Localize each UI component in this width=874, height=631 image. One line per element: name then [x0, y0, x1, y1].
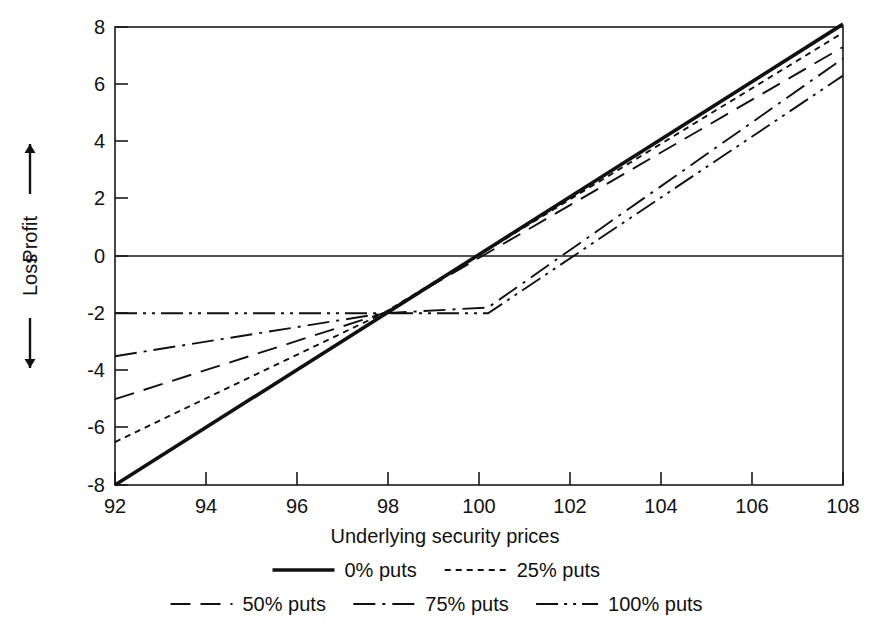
- y-tick-label: 6: [94, 73, 105, 95]
- x-axis-tick-labels: 92 94 96 98 100 102 104 106 108: [104, 495, 860, 517]
- y-tick-label: -2: [87, 302, 105, 324]
- legend-label: 0% puts: [345, 559, 417, 581]
- chart-figure: 8 6 4 2 0 -2 -4 -6 -8 92 94 96 98: [0, 0, 874, 631]
- x-tick-label: 96: [286, 495, 308, 517]
- y-tick-label: 4: [94, 130, 105, 152]
- series-line-100-puts: [115, 76, 843, 314]
- y-tick-label: 0: [94, 245, 105, 267]
- x-tick-label: 92: [104, 495, 126, 517]
- y-tick-label: -6: [87, 416, 105, 438]
- loss-down-arrow-icon: [25, 318, 36, 368]
- series-layer: [115, 24, 843, 485]
- y-tick-label: -8: [87, 474, 105, 496]
- y-axis-title-loss: Loss: [19, 254, 41, 296]
- y-tick-label: 8: [94, 16, 105, 38]
- legend-label: 75% puts: [425, 593, 508, 615]
- legend-label: 25% puts: [517, 559, 600, 581]
- x-axis-title: Underlying security prices: [331, 525, 560, 547]
- x-axis-ticks: [115, 472, 843, 485]
- legend-label: 50% puts: [243, 593, 326, 615]
- series-line-75-puts: [115, 58, 843, 356]
- y-axis-tick-labels: 8 6 4 2 0 -2 -4 -6 -8: [87, 16, 105, 496]
- legend-label: 100% puts: [608, 593, 703, 615]
- x-tick-label: 106: [735, 495, 768, 517]
- x-tick-label: 104: [644, 495, 677, 517]
- x-tick-label: 100: [462, 495, 495, 517]
- x-tick-label: 102: [553, 495, 586, 517]
- x-tick-label: 94: [195, 495, 217, 517]
- y-tick-label: -4: [87, 359, 105, 381]
- profit-loss-line-chart: 8 6 4 2 0 -2 -4 -6 -8 92 94 96 98: [0, 0, 874, 631]
- chart-legend: 0% puts25% puts50% puts75% puts100% puts: [171, 559, 703, 615]
- y-axis-title: Profit Loss: [19, 144, 41, 368]
- y-axis-ticks: [115, 27, 128, 485]
- x-tick-label: 98: [377, 495, 399, 517]
- y-tick-label: 2: [94, 187, 105, 209]
- x-tick-label: 108: [826, 495, 859, 517]
- profit-up-arrow-icon: [25, 144, 36, 194]
